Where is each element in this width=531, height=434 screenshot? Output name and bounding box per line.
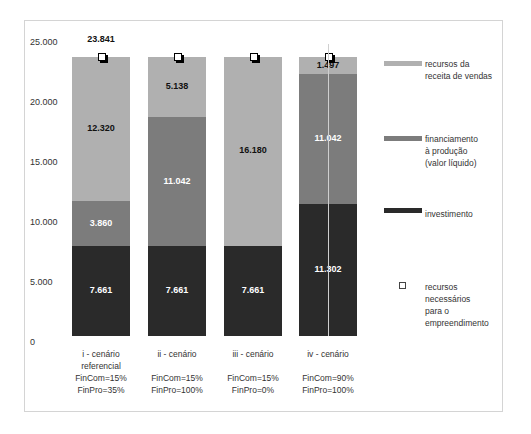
x-label-line xyxy=(283,360,373,372)
legend-label-line: recursos xyxy=(425,281,489,293)
required-resources-marker xyxy=(250,53,258,61)
y-tick-label: 5.000 xyxy=(30,277,70,287)
segment-value-label: 3.860 xyxy=(72,218,130,228)
legend-label-line: investimento xyxy=(425,208,473,220)
y-tick-label: 25.000 xyxy=(30,37,70,47)
legend-label-line: para o xyxy=(425,305,489,317)
legend-label: financiamentoà produção(valor líquido) xyxy=(425,133,478,169)
x-label-line: iv - cenário xyxy=(283,348,373,360)
segment-value-label: 7.661 xyxy=(148,285,206,295)
legend-label-line: (valor líquido) xyxy=(425,157,478,169)
x-label-line: FinCom=90% xyxy=(283,372,373,384)
segment-value-label: 5.138 xyxy=(148,81,206,91)
y-tick-label: 0 xyxy=(30,337,70,347)
legend-label-line: empreendimento xyxy=(425,317,489,329)
legend-label-line: financiamento xyxy=(425,133,478,145)
segment-value-label: 12.320 xyxy=(72,123,130,133)
legend-marker-icon xyxy=(399,282,406,289)
segment-value-label: 16.180 xyxy=(224,145,282,155)
legend-label: recursos dareceita de vendas xyxy=(425,58,492,82)
segment-value-label: 11.042 xyxy=(148,176,206,186)
legend-swatch xyxy=(384,136,422,141)
legend-label-line: à produção xyxy=(425,145,478,157)
legend-label: investimento xyxy=(425,208,473,220)
y-tick-label: 15.000 xyxy=(30,157,70,167)
legend-label-line: recursos da xyxy=(425,58,492,70)
x-category-label: iv - cenárioFinCom=90%FinPro=100% xyxy=(283,348,373,396)
required-resources-marker xyxy=(325,53,333,61)
legend-label-line: receita de vendas xyxy=(425,70,492,82)
required-resources-marker xyxy=(98,53,106,61)
segment-value-label: 7.661 xyxy=(72,285,130,295)
y-tick-label: 10.000 xyxy=(30,217,70,227)
x-label-line: FinPro=100% xyxy=(283,384,373,396)
required-resources-marker xyxy=(174,53,182,61)
bar-iv-divider-line xyxy=(328,44,329,336)
legend-swatch xyxy=(384,208,422,213)
segment-value-label: 7.661 xyxy=(224,285,282,295)
legend-label-line: necessários xyxy=(425,293,489,305)
legend-swatch xyxy=(384,61,422,66)
y-tick-label: 20.000 xyxy=(30,97,70,107)
total-value-label: 23.841 xyxy=(72,34,130,44)
legend-label: recursosnecessáriospara oempreendimento xyxy=(425,281,489,329)
